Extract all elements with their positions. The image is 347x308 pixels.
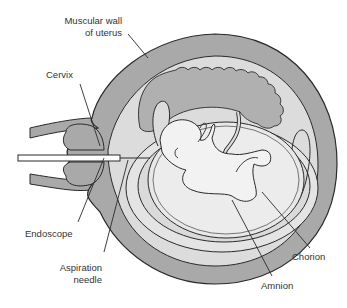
label-aspiration-line2: needle (54, 274, 102, 286)
label-endoscope: Endoscope (25, 228, 73, 240)
label-cervix: Cervix (46, 69, 73, 81)
fetoscopy-diagram: Muscular wall of uterus Cervix Endoscope… (0, 0, 347, 308)
label-amnion: Amnion (261, 280, 293, 292)
label-muscular-wall: Muscular wall of uterus (60, 15, 122, 39)
label-aspiration-line1: Aspiration (54, 262, 102, 274)
label-aspiration-needle: Aspiration needle (54, 262, 102, 286)
label-chorion: Chorion (292, 251, 325, 263)
label-muscular-wall-line2: of uterus (60, 27, 122, 39)
endoscope (18, 155, 120, 161)
leader-muscular-wall (128, 34, 148, 58)
label-muscular-wall-line1: Muscular wall (60, 15, 122, 27)
